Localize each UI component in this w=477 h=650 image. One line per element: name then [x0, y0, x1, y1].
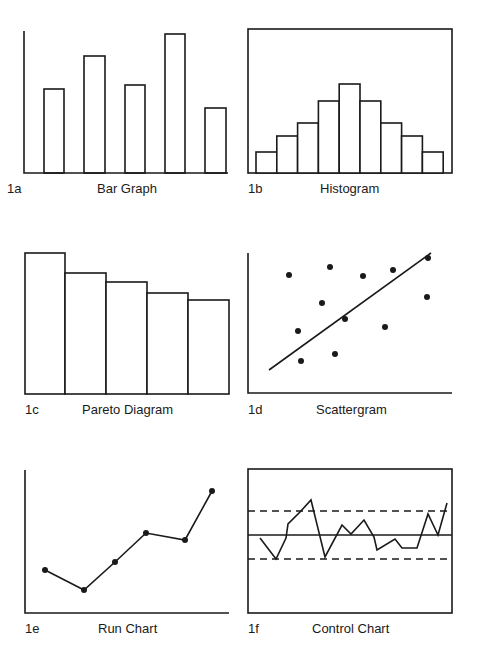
scattergram-panel: [248, 253, 452, 393]
panel-title-pareto-diagram: Pareto Diagram: [82, 402, 173, 417]
histogram-bar: [402, 136, 423, 173]
run-point: [81, 587, 87, 593]
panel-id-1d: 1d: [248, 402, 262, 417]
run-chart-panel: [25, 470, 229, 613]
panel-title-control-chart: Control Chart: [312, 621, 390, 636]
bar: [165, 34, 185, 173]
scatter-point: [286, 272, 292, 278]
histogram-bar: [360, 101, 381, 173]
panel-title-bar-graph: Bar Graph: [97, 181, 157, 196]
axis-lines: [248, 253, 452, 393]
scatter-point: [327, 264, 333, 270]
bar: [205, 108, 226, 173]
scatter-point: [319, 300, 325, 306]
bar: [44, 89, 64, 173]
chart-canvas: 1a Bar Graph 1b Histogram 1c Pareto Diag…: [0, 0, 477, 650]
histogram-bar: [381, 123, 402, 173]
panel-id-1a: 1a: [7, 181, 22, 196]
bar: [125, 85, 145, 173]
scatter-point: [295, 328, 301, 334]
scatter-point: [298, 358, 304, 364]
histogram-bar: [298, 123, 319, 173]
axis-lines: [25, 470, 229, 613]
panel-title-run-chart: Run Chart: [98, 621, 158, 636]
histogram-bar: [422, 152, 443, 173]
pareto-bar: [106, 282, 147, 394]
histogram-bar: [256, 152, 277, 173]
panel-id-1e: 1e: [25, 621, 39, 636]
histogram-bar: [339, 84, 360, 173]
scatter-point: [382, 324, 388, 330]
panel-title-scattergram: Scattergram: [316, 402, 387, 417]
scatter-point: [425, 255, 431, 261]
plot-frame: [248, 469, 452, 613]
run-point: [42, 567, 48, 573]
run-point: [182, 537, 188, 543]
histogram-bar: [318, 101, 339, 173]
scatter-point: [424, 294, 430, 300]
panel-id-1c: 1c: [25, 402, 39, 417]
run-point: [143, 530, 149, 536]
run-point: [209, 488, 215, 494]
panel-title-histogram: Histogram: [320, 181, 379, 196]
pareto-bar: [147, 293, 188, 394]
scatter-point: [360, 273, 366, 279]
pareto-bar: [188, 300, 229, 394]
bar: [84, 56, 105, 173]
pareto-diagram-panel: [25, 253, 229, 394]
scatter-point: [342, 316, 348, 322]
histogram-panel: [248, 29, 452, 173]
panel-id-1f: 1f: [248, 621, 259, 636]
bar-graph-panel: [24, 31, 228, 173]
panel-id-1b: 1b: [248, 181, 262, 196]
histogram-bar: [277, 136, 298, 173]
scatter-point: [390, 267, 396, 273]
run-point: [112, 559, 118, 565]
pareto-bar: [25, 253, 65, 394]
scatter-point: [332, 351, 338, 357]
trend-line: [269, 253, 431, 370]
pareto-bar: [65, 273, 106, 394]
process-line: [260, 500, 447, 559]
control-chart-panel: [248, 469, 452, 613]
